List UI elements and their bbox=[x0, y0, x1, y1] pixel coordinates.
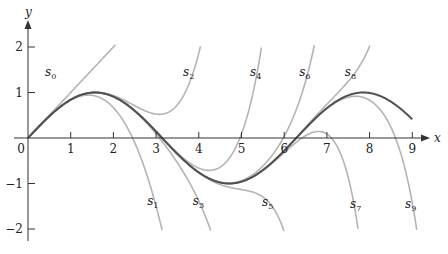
label-s5: s5 bbox=[262, 195, 273, 211]
x-tick-label-9: 9 bbox=[408, 142, 416, 156]
label-s7: s7 bbox=[350, 197, 361, 213]
label-s3: s3 bbox=[193, 194, 204, 210]
taylor-sine-chart: x y 012345678921−1−2 s0s1s2s3s4s5s6s7s8s… bbox=[0, 0, 448, 254]
curve-s3 bbox=[28, 93, 211, 231]
y-tick-label--1: −1 bbox=[5, 177, 23, 191]
label-s9: s9 bbox=[405, 197, 416, 213]
x-tick-label-6: 6 bbox=[280, 142, 288, 156]
curve-s1 bbox=[28, 95, 162, 230]
y-axis-arrow-icon bbox=[25, 20, 32, 29]
label-s4: s4 bbox=[250, 65, 261, 81]
curve-labels-layer: s0s1s2s3s4s5s6s7s8s9 bbox=[45, 65, 416, 213]
x-axis-label: x bbox=[434, 131, 441, 145]
curve-s7 bbox=[28, 93, 358, 229]
x-tick-label-5: 5 bbox=[238, 142, 246, 156]
y-tick-label--2: −2 bbox=[5, 222, 23, 236]
x-tick-label-2: 2 bbox=[110, 142, 118, 156]
label-s2: s2 bbox=[183, 65, 194, 81]
curve-s4 bbox=[28, 48, 261, 171]
x-tick-label-3: 3 bbox=[152, 142, 160, 156]
label-s0: s0 bbox=[45, 65, 56, 81]
x-axis-arrow-icon bbox=[421, 135, 430, 142]
y-tick-label-2: 2 bbox=[15, 40, 23, 54]
x-tick-label-1: 1 bbox=[67, 142, 75, 156]
label-s1: s1 bbox=[147, 194, 158, 210]
y-axis-label: y bbox=[24, 5, 32, 19]
x-tick-label-0: 0 bbox=[17, 142, 25, 156]
label-s8: s8 bbox=[345, 65, 356, 81]
axes-layer: x y bbox=[14, 5, 441, 241]
curve-s2 bbox=[28, 46, 201, 138]
y-tick-label-1: 1 bbox=[15, 86, 23, 100]
x-tick-label-4: 4 bbox=[195, 142, 203, 156]
x-tick-label-7: 7 bbox=[323, 142, 331, 156]
x-tick-label-8: 8 bbox=[366, 142, 374, 156]
